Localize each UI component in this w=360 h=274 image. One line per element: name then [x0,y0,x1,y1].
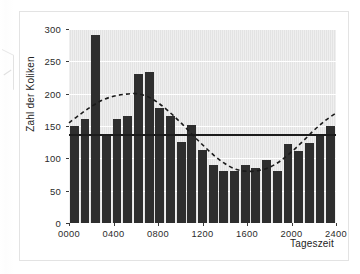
x-axis-tick-mark [203,223,204,226]
y-axis-tick-mark [66,61,69,62]
y-axis-tick-label: 300 [35,24,61,35]
y-axis-tick-label: 250 [35,56,61,67]
x-axis-title: Tageszeit [290,238,334,249]
x-axis-tick-mark [69,223,70,226]
scanned-page-edge [0,0,14,274]
x-axis-tick-label: 0800 [147,229,169,239]
y-axis-tick-mark [66,94,69,95]
x-axis-tick-label: 1200 [192,229,214,239]
x-axis-tick-label: 0000 [58,229,80,239]
y-axis-tick-label: 100 [35,153,61,164]
y-axis-tick-label: 0 [35,218,61,229]
x-axis-tick-mark [292,223,293,226]
y-axis-tick-mark [66,126,69,127]
chart-figure: Zahl der Koliken 050100150200250300 0000… [19,11,349,261]
x-axis-tick-label: 1600 [236,229,258,239]
page-curl-artifact [2,49,14,90]
x-axis-tick-label: 0400 [103,229,125,239]
x-axis-tick-mark [247,223,248,226]
x-axis-tick-mark [336,223,337,226]
y-axis-tick-label: 200 [35,88,61,99]
y-axis-tick-label: 150 [35,121,61,132]
plot-area [69,29,336,223]
y-axis-tick-mark [66,191,69,192]
y-axis-tick-mark [66,158,69,159]
fitted-curve [69,29,336,223]
x-axis-tick-mark [114,223,115,226]
y-axis-tick-label: 50 [35,185,61,196]
y-axis-tick-mark [66,29,69,30]
x-axis-tick-mark [158,223,159,226]
